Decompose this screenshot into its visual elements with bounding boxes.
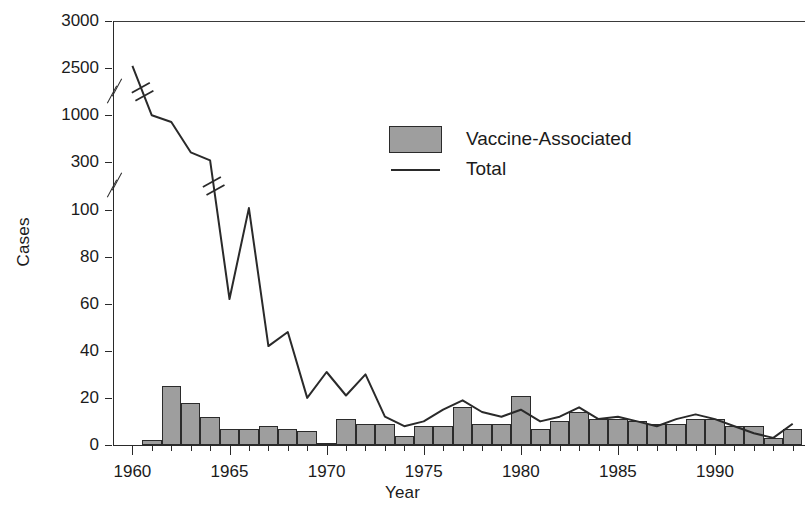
legend-label-vaccine-associated: Vaccine-Associated bbox=[466, 128, 631, 150]
y-tick-mark bbox=[105, 162, 112, 163]
x-tick-mark bbox=[540, 445, 541, 451]
x-tick-mark bbox=[346, 445, 347, 451]
x-tick-mark bbox=[404, 445, 405, 451]
y-tick-mark bbox=[105, 304, 112, 305]
x-tick-mark bbox=[637, 445, 638, 451]
line-break-hatch bbox=[132, 83, 150, 93]
y-tick-mark bbox=[105, 21, 112, 22]
x-tick-mark bbox=[463, 445, 464, 451]
x-tick-mark bbox=[132, 445, 133, 455]
x-axis-line bbox=[113, 445, 805, 446]
x-tick-label: 1970 bbox=[297, 463, 357, 480]
x-tick-label: 1965 bbox=[200, 463, 260, 480]
y-tick-mark bbox=[105, 398, 112, 399]
x-tick-mark bbox=[152, 445, 153, 451]
x-tick-label: 1975 bbox=[394, 463, 454, 480]
x-tick-mark bbox=[482, 445, 483, 451]
x-tick-mark bbox=[773, 445, 774, 451]
x-tick-mark bbox=[327, 445, 328, 455]
x-tick-label: 1980 bbox=[491, 463, 551, 480]
legend-line-glyph bbox=[391, 169, 440, 171]
x-tick-mark bbox=[365, 445, 366, 451]
x-tick-mark bbox=[599, 445, 600, 451]
y-tick-mark bbox=[105, 115, 112, 116]
plot-area bbox=[113, 21, 805, 445]
x-axis-title: Year bbox=[0, 483, 805, 503]
y-tick-label: 60 bbox=[21, 295, 99, 312]
x-tick-mark bbox=[579, 445, 580, 451]
x-tick-mark bbox=[268, 445, 269, 451]
y-tick-label: 300 bbox=[21, 153, 99, 170]
legend-swatch-line bbox=[389, 156, 442, 183]
x-tick-mark bbox=[715, 445, 716, 455]
chart-container: Cases Year 020406080100300100025003000 1… bbox=[0, 0, 805, 507]
x-tick-mark bbox=[754, 445, 755, 451]
total-line-path bbox=[113, 21, 805, 445]
chart-legend: Vaccine-Associated Total bbox=[389, 124, 631, 184]
line-series-total bbox=[113, 21, 805, 445]
x-tick-mark bbox=[191, 445, 192, 451]
y-tick-mark bbox=[105, 68, 112, 69]
x-tick-mark bbox=[424, 445, 425, 455]
x-tick-mark bbox=[307, 445, 308, 451]
y-tick-mark bbox=[105, 445, 112, 446]
x-tick-label: 1960 bbox=[102, 463, 162, 480]
axis-break-upper-icon bbox=[102, 81, 124, 101]
y-tick-label: 20 bbox=[21, 389, 99, 406]
x-tick-mark bbox=[793, 445, 794, 451]
x-tick-mark bbox=[288, 445, 289, 451]
x-tick-mark bbox=[210, 445, 211, 451]
legend-swatch-bar bbox=[389, 126, 442, 153]
x-tick-mark bbox=[443, 445, 444, 451]
y-tick-label: 2500 bbox=[21, 59, 99, 76]
y-tick-label: 0 bbox=[21, 436, 99, 453]
y-tick-label: 1000 bbox=[21, 106, 99, 123]
x-tick-mark bbox=[230, 445, 231, 455]
x-tick-mark bbox=[676, 445, 677, 451]
y-tick-mark bbox=[105, 257, 112, 258]
x-tick-mark bbox=[501, 445, 502, 451]
legend-item-vaccine-associated: Vaccine-Associated bbox=[389, 124, 631, 154]
x-tick-mark bbox=[521, 445, 522, 455]
x-tick-label: 1985 bbox=[588, 463, 648, 480]
x-tick-mark bbox=[560, 445, 561, 451]
y-tick-mark bbox=[105, 210, 112, 211]
y-tick-mark bbox=[105, 351, 112, 352]
x-tick-mark bbox=[696, 445, 697, 451]
x-tick-mark bbox=[385, 445, 386, 451]
y-tick-label: 40 bbox=[21, 342, 99, 359]
x-tick-label: 1990 bbox=[685, 463, 745, 480]
line-break-hatch bbox=[135, 91, 153, 101]
x-tick-mark bbox=[249, 445, 250, 451]
y-tick-label: 3000 bbox=[21, 12, 99, 29]
x-tick-mark bbox=[618, 445, 619, 455]
legend-item-total: Total bbox=[389, 154, 631, 184]
x-tick-mark bbox=[657, 445, 658, 451]
legend-label-total: Total bbox=[466, 158, 506, 180]
x-tick-mark bbox=[171, 445, 172, 451]
x-tick-mark bbox=[734, 445, 735, 451]
y-tick-label: 80 bbox=[21, 248, 99, 265]
y-tick-label: 100 bbox=[21, 201, 99, 218]
axis-break-lower-icon bbox=[102, 175, 124, 195]
